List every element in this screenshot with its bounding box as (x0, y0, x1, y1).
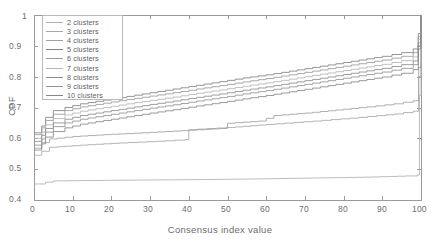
legend-item-label: 7 clusters (67, 64, 99, 73)
legend-item-3-clusters[interactable]: 3 clusters (43, 27, 122, 36)
legend-item-2-clusters[interactable]: 2 clusters (43, 18, 122, 27)
legend-item-8-clusters[interactable]: 8 clusters (43, 73, 122, 82)
legend-item-label: 3 clusters (67, 27, 99, 36)
legend-item-label: 4 clusters (67, 36, 99, 45)
legend-swatch-icon (46, 77, 63, 78)
legend-item-label: 8 clusters (67, 73, 99, 82)
cdf-consensus-chart: 1 0.9 0.8 0.7 0.6 0.5 0.4 0 10 20 30 40 … (0, 0, 440, 242)
legend-swatch-icon (46, 40, 63, 41)
legend-swatch-icon (46, 95, 63, 96)
legend-item-10-clusters[interactable]: 10 clusters (43, 91, 122, 100)
legend-swatch-icon (46, 86, 63, 87)
legend-item-label: 10 clusters (67, 91, 103, 100)
legend-swatch-icon (46, 58, 63, 59)
legend-swatch-icon (46, 31, 63, 32)
legend-swatch-icon (46, 49, 63, 50)
legend-item-5-clusters[interactable]: 5 clusters (43, 45, 122, 54)
legend-item-4-clusters[interactable]: 4 clusters (43, 36, 122, 45)
legend-swatch-icon (46, 68, 63, 69)
legend-item-9-clusters[interactable]: 9 clusters (43, 82, 122, 91)
legend-item-7-clusters[interactable]: 7 clusters (43, 63, 122, 72)
legend-item-label: 2 clusters (67, 18, 99, 27)
legend[interactable]: 2 clusters3 clusters4 clusters5 clusters… (42, 15, 123, 100)
legend-item-label: 5 clusters (67, 45, 99, 54)
legend-item-label: 6 clusters (67, 54, 99, 63)
legend-item-6-clusters[interactable]: 6 clusters (43, 54, 122, 63)
legend-swatch-icon (46, 22, 63, 23)
legend-item-label: 9 clusters (67, 82, 99, 91)
